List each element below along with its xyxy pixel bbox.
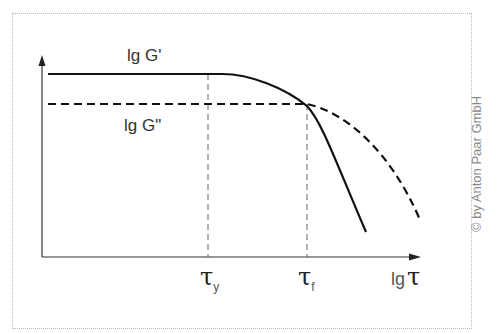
y-axis-arrow-icon [39, 55, 46, 66]
g-prime-curve [48, 74, 366, 232]
tau-y-symbol: τ [200, 263, 213, 291]
x-axis-prefix: lg [391, 269, 405, 289]
tau-f-symbol: τ [298, 263, 311, 291]
g-double-prime-label: lg G" [124, 116, 161, 136]
x-axis-arrow-icon [409, 254, 421, 261]
tau-y-label: τy [200, 263, 219, 294]
tau-f-subscript: f [311, 280, 314, 294]
x-axis-label: lgτ [391, 263, 420, 291]
diagram-canvas [0, 0, 499, 334]
tau-y-subscript: y [213, 280, 219, 294]
g-prime-label: lg G' [127, 46, 161, 66]
tau-f-label: τf [298, 263, 315, 294]
g-double-prime-curve [48, 104, 420, 220]
copyright-notice: © by Anton Paar GmbH [469, 96, 484, 232]
x-axis-symbol: τ [407, 263, 420, 291]
